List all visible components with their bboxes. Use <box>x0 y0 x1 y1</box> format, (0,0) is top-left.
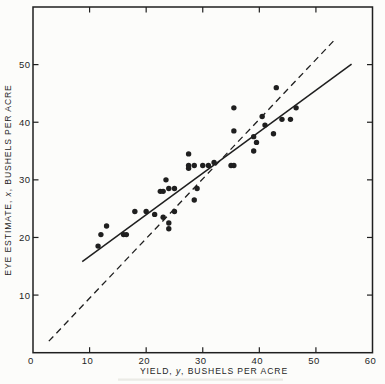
data-point <box>186 151 191 156</box>
y-tick-label: 30 <box>19 174 31 185</box>
data-point <box>192 197 197 202</box>
x-tick-label: 0 <box>28 355 34 366</box>
data-point <box>254 140 259 145</box>
scanned-figure-page: 01020304050601020304050YIELD, y, BUSHELS… <box>0 0 385 384</box>
data-point <box>172 186 177 191</box>
y-axis-title: EYE ESTIMATE, x, BUSHELS PER ACRE <box>3 84 13 275</box>
data-point <box>231 128 236 133</box>
y-tick-label: 50 <box>19 59 31 70</box>
data-point <box>95 243 100 248</box>
data-point <box>160 189 165 194</box>
data-point <box>172 209 177 214</box>
y-tick-label: 20 <box>19 232 31 243</box>
data-point <box>200 163 205 168</box>
paper-background <box>0 0 385 384</box>
data-point <box>124 232 129 237</box>
data-point <box>274 85 279 90</box>
y-tick-label: 40 <box>19 117 31 128</box>
data-point <box>231 105 236 110</box>
data-point <box>104 223 109 228</box>
scatter-chart: 01020304050601020304050YIELD, y, BUSHELS… <box>0 0 385 384</box>
data-point <box>98 232 103 237</box>
data-point <box>251 148 256 153</box>
data-point <box>132 209 137 214</box>
data-point <box>166 186 171 191</box>
x-tick-label: 10 <box>82 355 94 366</box>
data-point <box>166 220 171 225</box>
data-point <box>231 163 236 168</box>
data-point <box>163 177 168 182</box>
data-point <box>288 117 293 122</box>
data-point <box>211 160 216 165</box>
data-point <box>192 163 197 168</box>
data-point <box>186 166 191 171</box>
data-point <box>262 122 267 127</box>
data-point <box>279 117 284 122</box>
x-axis-title: YIELD, y, BUSHELS PER ACRE <box>140 366 288 376</box>
x-tick-label: 60 <box>365 355 377 366</box>
data-point <box>293 105 298 110</box>
data-point <box>143 209 148 214</box>
data-point <box>152 212 157 217</box>
data-point <box>206 163 211 168</box>
data-point <box>166 226 171 231</box>
data-point <box>259 114 264 119</box>
data-point <box>160 215 165 220</box>
data-point <box>271 131 276 136</box>
y-tick-label: 10 <box>19 290 31 301</box>
data-point <box>194 186 199 191</box>
scan-artifact <box>118 379 283 381</box>
data-point <box>251 134 256 139</box>
x-tick-label: 50 <box>308 355 320 366</box>
